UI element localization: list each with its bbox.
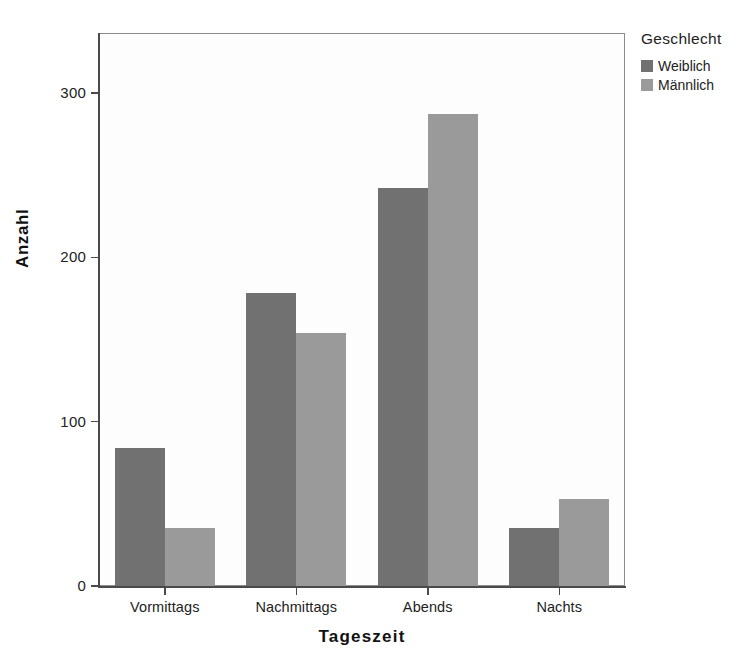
x-tick-label: Nachts <box>479 599 639 615</box>
y-axis-title: Anzahl <box>13 209 33 268</box>
x-tick-mark <box>164 587 166 595</box>
x-axis-title: Tageszeit <box>99 627 625 647</box>
y-tick-label: 300 <box>26 84 86 101</box>
legend-swatch-icon <box>641 60 653 72</box>
y-tick-label: 200 <box>26 248 86 265</box>
plot-area <box>99 33 625 586</box>
x-axis-line <box>98 586 626 588</box>
y-tick-mark <box>91 92 99 94</box>
y-axis-line <box>98 33 100 587</box>
bar <box>165 528 215 586</box>
y-tick-mark <box>91 585 99 587</box>
legend-item: Weiblich <box>641 58 741 74</box>
x-tick-mark <box>296 587 298 595</box>
legend-item: Männlich <box>641 77 741 93</box>
legend-item-label: Männlich <box>658 77 714 93</box>
y-tick-mark <box>91 421 99 423</box>
y-tick-label: 100 <box>26 413 86 430</box>
legend-swatch-icon <box>641 79 653 91</box>
bar <box>296 333 346 586</box>
legend-entries: WeiblichMännlich <box>641 58 741 93</box>
legend: Geschlecht WeiblichMännlich <box>641 30 741 96</box>
bar <box>246 293 296 586</box>
bar <box>559 499 609 586</box>
legend-title: Geschlecht <box>641 30 741 48</box>
x-tick-mark <box>427 587 429 595</box>
legend-item-label: Weiblich <box>658 58 711 74</box>
bar <box>509 528 559 586</box>
bar <box>115 448 165 586</box>
x-tick-mark <box>559 587 561 595</box>
y-tick-label: 0 <box>26 577 86 594</box>
bar <box>378 188 428 586</box>
y-tick-mark <box>91 257 99 259</box>
bar <box>428 114 478 586</box>
bar-chart: 0100200300 VormittagsNachmittagsAbendsNa… <box>0 0 742 666</box>
